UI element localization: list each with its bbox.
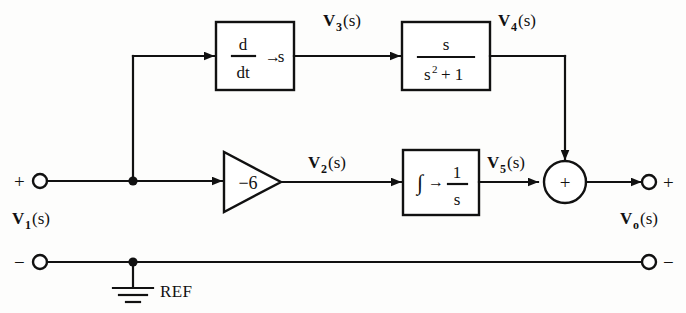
summing-junction: + (544, 161, 586, 203)
resonator-denominator-tail: + 1 (441, 65, 463, 84)
gain-amplifier: −6 (224, 152, 281, 212)
input-terminal-minus (33, 255, 47, 269)
differentiator-denominator: dt (236, 63, 250, 82)
input-terminal-plus (33, 174, 47, 188)
label-v4-paren: (s) (518, 11, 536, 30)
output-minus-sign: − (663, 252, 674, 273)
label-v2-paren: (s) (328, 153, 346, 172)
label-v4-sub: 4 (511, 20, 517, 34)
differentiator-equivalent: s (278, 47, 285, 66)
ground-symbol-icon (113, 262, 153, 302)
resonator-block: s s 2 + 1 (402, 22, 490, 90)
label-v5: V 5 (s) (487, 153, 525, 176)
label-v5-v: V (487, 153, 500, 172)
label-v4-v: V (498, 11, 511, 30)
output-terminal-plus (642, 175, 656, 189)
input-minus-sign: − (14, 252, 25, 273)
resonator-denominator-exponent: 2 (432, 63, 438, 75)
block-diagram-canvas: d dt → s V 3 (s) s s 2 + 1 (0, 0, 686, 313)
label-v2-sub: 2 (321, 162, 327, 176)
label-v4: V 4 (s) (498, 11, 536, 34)
label-v1: V 1 (s) (12, 209, 50, 232)
input-branch-junction-dot (128, 176, 137, 185)
label-vo-paren: (s) (640, 209, 658, 228)
integrator-arrow-icon: → (428, 173, 444, 190)
summing-junction-sign: + (560, 172, 571, 193)
resonator-numerator: s (443, 35, 450, 54)
label-v1-paren: (s) (32, 209, 50, 228)
input-plus-sign: + (14, 171, 25, 192)
integrator-numerator: 1 (453, 163, 462, 182)
differentiator-block: d dt → s (216, 22, 294, 90)
wire-v4-path (490, 56, 565, 160)
integrator-block: ∫ → 1 s (403, 150, 479, 215)
output-terminal-minus (642, 255, 656, 269)
label-v2: V 2 (s) (308, 153, 346, 176)
label-v5-sub: 5 (500, 162, 506, 176)
label-v3-paren: (s) (343, 11, 361, 30)
label-vo: V o (s) (620, 209, 658, 232)
label-vo-sub: o (633, 218, 639, 232)
label-v3-v: V (323, 11, 336, 30)
ground-reference-label: REF (160, 282, 192, 301)
integrator-denominator: s (454, 190, 461, 209)
differentiator-numerator: d (239, 35, 248, 54)
resonator-denominator-base: s (424, 65, 431, 84)
label-v3-sub: 3 (336, 20, 342, 34)
label-v1-v: V (12, 209, 25, 228)
feedforward-top-path (133, 56, 214, 181)
label-v1-sub: 1 (25, 218, 31, 232)
label-vo-v: V (620, 209, 633, 228)
output-plus-sign: + (663, 172, 674, 193)
block-diagram-figure: d dt → s V 3 (s) s s 2 + 1 (0, 0, 686, 313)
label-v2-v: V (308, 153, 321, 172)
label-v3: V 3 (s) (323, 11, 361, 34)
label-v5-paren: (s) (507, 153, 525, 172)
amplifier-gain-label: −6 (238, 173, 257, 193)
